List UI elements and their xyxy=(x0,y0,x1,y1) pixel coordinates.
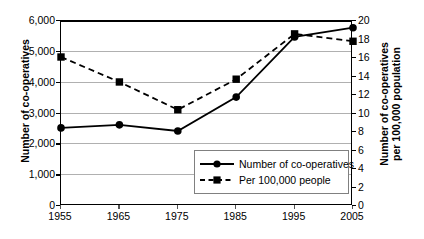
y-axis-left-tick-mark xyxy=(56,51,60,52)
x-axis-tick-mark xyxy=(118,205,119,209)
y-axis-right-tick-label: 10 xyxy=(358,108,370,119)
data-point xyxy=(57,53,64,60)
legend-label-0: Number of co-operatives xyxy=(239,158,354,170)
y-axis-right-title-line2: per 100,000 population xyxy=(390,14,402,194)
y-axis-left-tick-mark xyxy=(56,82,60,83)
data-point xyxy=(233,76,240,83)
data-point xyxy=(349,24,357,32)
line-number-of-co-operatives xyxy=(61,28,353,131)
y-axis-right-tick-mark xyxy=(352,94,356,95)
legend-item-number-of-co-operatives: Number of co-operatives xyxy=(200,156,342,172)
y-axis-right-tick-mark xyxy=(352,131,356,132)
chart-legend: Number of co-operatives Per 100,000 peop… xyxy=(194,150,349,194)
x-axis-tick-label: 1965 xyxy=(107,211,130,222)
markers-per-100000-people xyxy=(57,30,356,113)
y-axis-right-tick-label: 12 xyxy=(358,89,370,100)
data-point xyxy=(174,106,181,113)
y-axis-right-tick-label: 0 xyxy=(358,200,364,211)
x-axis-tick-label: 1985 xyxy=(224,211,247,222)
y-axis-left-tick-label: 2,000 xyxy=(29,138,55,149)
y-axis-left-tick-label: 0 xyxy=(49,200,55,211)
markers-number-of-co-operatives xyxy=(57,24,357,135)
data-point xyxy=(232,93,240,101)
x-axis-ticks: 195519651975198519952005 xyxy=(60,209,352,225)
y-axis-left-tick-mark xyxy=(56,113,60,114)
x-axis-tick-mark xyxy=(177,205,178,209)
y-axis-right-tick-label: 20 xyxy=(358,15,370,26)
y-axis-right-tick-label: 4 xyxy=(358,163,364,174)
y-axis-right-tick-mark xyxy=(352,76,356,77)
y-axis-left-tick-label: 1,000 xyxy=(29,169,55,180)
y-axis-right-tick-label: 8 xyxy=(358,126,364,137)
y-axis-right-tick-mark xyxy=(352,39,356,40)
y-axis-left-tick-label: 3,000 xyxy=(29,108,55,119)
y-axis-left-tick-mark xyxy=(56,20,60,21)
legend-marker-square-icon xyxy=(200,173,234,187)
chart-container: Number of co-operatives Number of co-ope… xyxy=(0,0,424,239)
line-per-100000-people xyxy=(61,34,353,110)
y-axis-right-tick-label: 14 xyxy=(358,71,370,82)
x-axis-tick-label: 1995 xyxy=(282,211,305,222)
legend-label-1: Per 100,000 people xyxy=(239,174,331,186)
y-axis-right-ticks: 02468101214161820 xyxy=(358,20,386,205)
y-axis-right-tick-label: 2 xyxy=(358,182,364,193)
y-axis-right-tick-mark xyxy=(352,187,356,188)
x-axis-tick-label: 2005 xyxy=(340,211,363,222)
y-axis-right-tick-mark xyxy=(352,168,356,169)
data-point xyxy=(174,127,182,135)
y-axis-left-ticks: 01,0002,0003,0004,0005,0006,000 xyxy=(0,20,55,205)
y-axis-left-tick-label: 5,000 xyxy=(29,46,55,57)
x-axis-tick-mark xyxy=(60,205,61,209)
y-axis-right-tick-mark xyxy=(352,57,356,58)
legend-marker-circle-icon xyxy=(200,157,234,171)
data-point xyxy=(57,124,65,132)
plot-area: Number of co-operatives Per 100,000 peop… xyxy=(60,20,352,205)
y-axis-right-tick-mark xyxy=(352,113,356,114)
y-axis-right-tick-label: 18 xyxy=(358,34,370,45)
data-point xyxy=(116,78,123,85)
y-axis-left-tick-mark xyxy=(56,143,60,144)
x-axis-tick-mark xyxy=(294,205,295,209)
y-axis-right-tick-mark xyxy=(352,150,356,151)
x-axis-tick-label: 1975 xyxy=(165,211,188,222)
legend-item-per-100000-people: Per 100,000 people xyxy=(200,172,342,188)
y-axis-right-tick-label: 6 xyxy=(358,145,364,156)
x-axis-tick-mark xyxy=(235,205,236,209)
data-point xyxy=(291,30,298,37)
x-axis-tick-label: 1955 xyxy=(48,211,71,222)
y-axis-right-tick-mark xyxy=(352,205,356,206)
y-axis-left-tick-mark xyxy=(56,205,60,206)
y-axis-left-tick-label: 4,000 xyxy=(29,77,55,88)
y-axis-right-tick-mark xyxy=(352,20,356,21)
data-point xyxy=(116,121,124,129)
y-axis-right-tick-label: 16 xyxy=(358,52,370,63)
y-axis-left-tick-label: 6,000 xyxy=(29,15,55,26)
y-axis-left-tick-mark xyxy=(56,174,60,175)
